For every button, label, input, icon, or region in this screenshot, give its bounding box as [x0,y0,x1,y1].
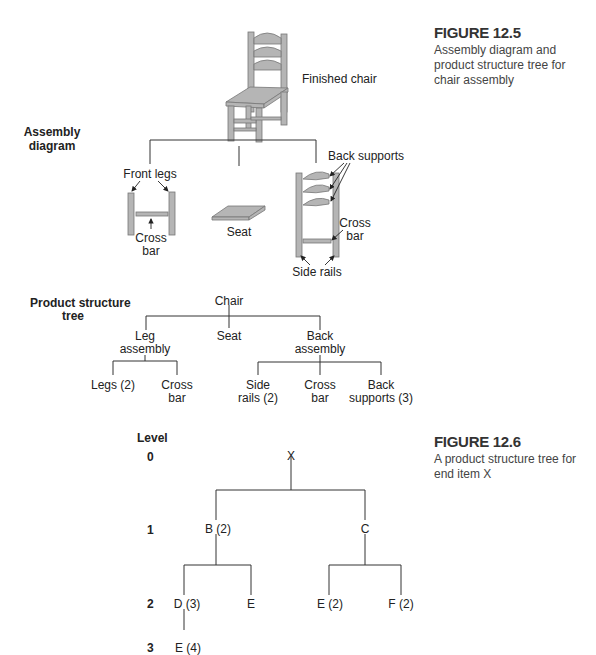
tree-node-e-under-d: E (4) [175,641,201,655]
pst-node-back-assembly-line1: Back [307,329,334,343]
pst-node-back-cross-bar-line2: bar [311,391,328,405]
right-cross-bar-label-line2: bar [346,229,363,243]
pst-node-side-rails-line2: rails (2) [238,391,278,405]
level-1-label: 1 [147,523,154,537]
assembly-diagram-label-line2: diagram [29,139,76,153]
pst-node-leg-assembly-line2: assembly [120,342,171,356]
right-cross-bar-label-line1: Cross [339,216,370,230]
level-3-label: 3 [147,641,154,655]
pst-node-legs: Legs (2) [91,378,135,392]
level-header: Level [137,431,168,445]
finished-chair-illustration [226,32,288,142]
pst-node-back-supports-line1: Back [368,378,395,392]
figure-12-5-title: FIGURE 12.5 [434,24,521,41]
level-0-label: 0 [147,450,154,464]
left-cross-bar-label-line2: bar [142,244,159,258]
tree-node-c: C [361,522,370,536]
tree-node-b: B (2) [205,522,231,536]
assembly-diagram-label-line1: Assembly [24,125,81,139]
front-legs-label: Front legs [123,167,176,181]
pst-node-chair: Chair [215,294,244,308]
finished-chair-label: Finished chair [302,72,377,86]
level-2-label: 2 [147,597,154,611]
tree-node-x: X [287,449,295,463]
pst-node-back-supports-line2: supports (3) [349,391,413,405]
pst-node-leg-assembly-line1: Leg [135,329,155,343]
figure-12-6-caption: A product structure tree for end item X [434,452,584,482]
back-supports-label: Back supports [328,149,404,163]
figure-12-5-caption: Assembly diagram and product structure t… [434,43,594,88]
tree-node-e-under-c: E (2) [317,597,343,611]
left-cross-bar-label-line1: Cross [135,231,166,245]
tree-node-d: D (3) [174,597,201,611]
pst-node-seat: Seat [217,329,242,343]
seat-label: Seat [227,225,252,239]
figure-12-6-tree-lines [184,456,401,630]
tree-node-f: F (2) [388,597,413,611]
assembly-connectors [150,140,316,166]
pst-node-back-assembly-line2: assembly [295,342,346,356]
pst-node-side-rails-line1: Side [246,378,270,392]
pst-node-back-cross-bar-line1: Cross [304,378,335,392]
product-structure-tree-label-line2: tree [62,309,84,323]
pst-node-leg-cross-bar-line1: Cross [161,378,192,392]
figure-12-6-title: FIGURE 12.6 [434,433,521,450]
side-rails-label: Side rails [292,265,341,279]
tree-node-e-under-b: E [247,597,255,611]
product-structure-tree-label-line1: Product structure [30,296,131,310]
pst-node-leg-cross-bar-line2: bar [168,391,185,405]
front-legs-parts [128,181,175,235]
seat-part [212,206,265,220]
back-assembly-parts [296,163,350,265]
